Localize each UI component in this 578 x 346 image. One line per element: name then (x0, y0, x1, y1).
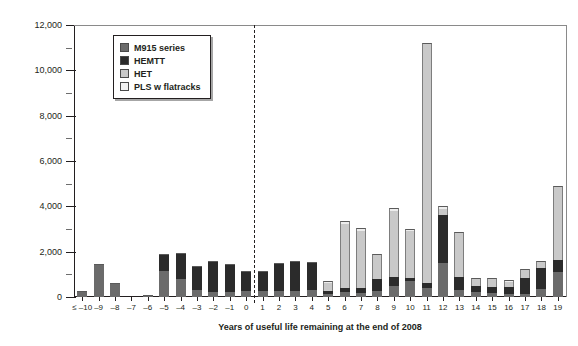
bar-column (94, 264, 104, 297)
bar-segment-hemtt (208, 261, 218, 292)
bar-segment-het (372, 255, 382, 279)
x-axis-tick (394, 297, 395, 301)
x-axis-label: 14 (471, 303, 480, 312)
y-axis-label: 6,000 (0, 156, 62, 166)
x-axis-label: 3 (293, 303, 297, 312)
bar-column (307, 262, 317, 297)
x-axis-tick (509, 297, 510, 301)
x-axis-tick (558, 297, 559, 301)
x-axis-label: 12 (439, 303, 448, 312)
x-axis-label: –8 (111, 303, 120, 312)
bar-column (258, 271, 268, 297)
x-axis-label: 1 (260, 303, 264, 312)
bar-segment-m915 (307, 290, 317, 297)
legend-swatch-m915-icon (120, 43, 129, 52)
bar-segment-hemtt (274, 263, 284, 290)
legend-item-het: HET (120, 67, 201, 80)
bar-column (389, 208, 399, 298)
bar-segment-het (405, 231, 415, 277)
bar-segment-het (471, 279, 481, 286)
bar-column (520, 269, 530, 297)
x-axis-label: 2 (277, 303, 281, 312)
bar-segment-hemtt (553, 260, 563, 272)
y-axis-label: 12,000 (0, 20, 62, 30)
bar-segment-hemtt (389, 277, 399, 286)
bar-segment-m915 (553, 272, 563, 297)
x-axis-label: –5 (160, 303, 169, 312)
y-axis-tick (66, 184, 72, 185)
bar-column (208, 261, 218, 297)
bar-segment-hemtt (372, 279, 382, 291)
x-axis-label: ≤ –10 (72, 303, 92, 312)
x-axis-tick (131, 297, 132, 301)
x-axis-title: Years of useful life remaining at the en… (74, 322, 566, 332)
bar-segment-hemtt (471, 286, 481, 293)
x-axis-tick (377, 297, 378, 301)
bar-segment-het (356, 231, 366, 289)
x-axis-tick (246, 297, 247, 301)
x-axis-tick (492, 297, 493, 301)
chart-legend: M915 series HEMTT HET PLS w flatracks (113, 35, 211, 99)
bar-segment-hemtt (159, 254, 169, 271)
legend-label-het: HET (134, 69, 152, 79)
bar-column (159, 254, 169, 297)
x-axis-tick (541, 297, 542, 301)
y-axis-tick (66, 93, 72, 94)
y-axis-tick (66, 48, 72, 49)
x-axis-label: –1 (225, 303, 234, 312)
bar-column (504, 280, 514, 297)
bar-segment-m915 (192, 290, 202, 297)
x-axis-label: 10 (406, 303, 415, 312)
x-axis-label: –7 (127, 303, 136, 312)
bar-segment-hemtt (225, 264, 235, 291)
bar-segment-m915 (110, 283, 120, 297)
x-axis-label: 9 (392, 303, 396, 312)
bar-segment-het (340, 224, 350, 287)
bar-segment-m915 (405, 281, 415, 297)
bar-segment-hemtt (307, 262, 317, 290)
x-axis-tick (295, 297, 296, 301)
legend-label-hemtt: HEMTT (134, 56, 165, 66)
x-axis-label: 15 (488, 303, 497, 312)
x-axis-label: –9 (94, 303, 103, 312)
bar-segment-m915 (422, 288, 432, 297)
x-axis-label: 8 (375, 303, 379, 312)
x-axis-label: 13 (455, 303, 464, 312)
legend-item-pls: PLS w flatracks (120, 80, 201, 93)
bar-segment-hemtt (176, 253, 186, 279)
x-axis-label: 7 (359, 303, 363, 312)
bar-segment-het (389, 211, 399, 277)
x-axis-tick (99, 297, 100, 301)
y-axis-tick (66, 297, 76, 298)
x-axis-label: –4 (176, 303, 185, 312)
legend-label-pls: PLS w flatracks (134, 82, 201, 92)
bar-column (471, 278, 481, 297)
bar-column (241, 271, 251, 297)
bar-segment-het (323, 283, 333, 290)
bar-segment-het (520, 270, 530, 278)
bar-column (405, 229, 415, 297)
x-axis-tick (312, 297, 313, 301)
bar-column (225, 264, 235, 297)
x-axis-label: –3 (193, 303, 202, 312)
bar-segment-m915 (94, 264, 104, 297)
plot-frame-right (566, 25, 567, 297)
y-axis-tick (66, 229, 72, 230)
x-axis-label: –2 (209, 303, 218, 312)
bar-column (454, 232, 464, 297)
x-axis-label: –6 (143, 303, 152, 312)
x-axis-tick (164, 297, 165, 301)
chart-figure: Number of HTWV 02,0004,0006,0008,00010,0… (0, 0, 578, 346)
x-axis-label: 0 (244, 303, 248, 312)
bar-segment-hemtt (438, 215, 448, 263)
bar-column (192, 266, 202, 297)
bar-column (487, 278, 497, 297)
bar-column (438, 206, 448, 297)
x-axis-tick (345, 297, 346, 301)
bar-column (340, 221, 350, 297)
x-axis-tick (230, 297, 231, 301)
x-axis-tick (82, 297, 83, 301)
bar-segment-m915 (389, 286, 399, 297)
legend-label-m915: M915 series (134, 43, 185, 53)
bar-segment-m915 (438, 263, 448, 297)
